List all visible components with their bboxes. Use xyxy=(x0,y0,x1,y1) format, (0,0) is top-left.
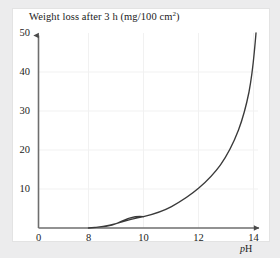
x-tick-label-12: 12 xyxy=(188,232,210,243)
x-tick-label-10: 10 xyxy=(133,232,155,243)
data-curve xyxy=(89,33,257,228)
chart-svg xyxy=(0,0,280,258)
x-tick-label-0: 0 xyxy=(28,232,50,243)
x-axis-label-suffix: H xyxy=(245,243,252,254)
x-tick-label-8: 8 xyxy=(78,232,100,243)
y-tick-label-10: 10 xyxy=(8,183,30,194)
gridlines-horizontal xyxy=(39,72,259,189)
y-tick-label-30: 30 xyxy=(8,105,30,116)
chart-title: Weight loss after 3 h (mg/100 cm2) xyxy=(29,11,180,22)
y-tick-label-50: 50 xyxy=(8,27,30,38)
y-tick-label-40: 40 xyxy=(8,66,30,77)
chart-figure: Weight loss after 3 h (mg/100 cm2) 50 40… xyxy=(0,0,280,258)
chart-title-main: Weight loss after 3 h (mg/100 cm xyxy=(29,11,173,22)
y-tick-label-20: 20 xyxy=(8,144,30,155)
gridlines-vertical xyxy=(89,33,254,228)
chart-title-suffix: ) xyxy=(176,11,180,22)
x-axis-label: pH xyxy=(240,243,252,254)
x-tick-label-14: 14 xyxy=(243,232,265,243)
